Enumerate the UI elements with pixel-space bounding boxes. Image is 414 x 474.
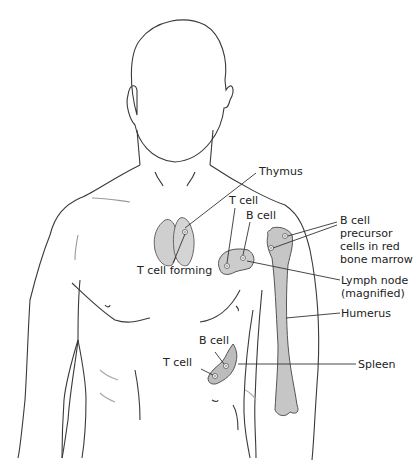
lymph-b-cell-label: B cell (246, 209, 276, 222)
humerus-label: Humerus (341, 307, 391, 320)
bone-marrow-label-3: cells in red (340, 240, 400, 253)
spleen-b-cell-label: B cell (199, 334, 229, 347)
head-outline (127, 20, 233, 162)
t-cell-forming-label: T cell forming (137, 264, 212, 277)
spleen-label: Spleen (358, 358, 396, 371)
bone-marrow-label-2: precursor (340, 227, 393, 240)
thymus-organ (154, 218, 194, 266)
lymph-node-label-2: (magnified) (341, 287, 405, 300)
lymph-node-label-1: Lymph node (341, 274, 408, 287)
bone-marrow-label-1: B cell (340, 214, 370, 227)
spleen-t-cell-label: T cell (163, 356, 192, 369)
lymph-t-cell-label: T cell (229, 194, 258, 207)
humerus-bone (267, 227, 298, 415)
spleen-organ (208, 344, 237, 384)
bone-marrow-label-4: bone marrow (340, 253, 413, 266)
thymus-label: Thymus (259, 165, 303, 178)
